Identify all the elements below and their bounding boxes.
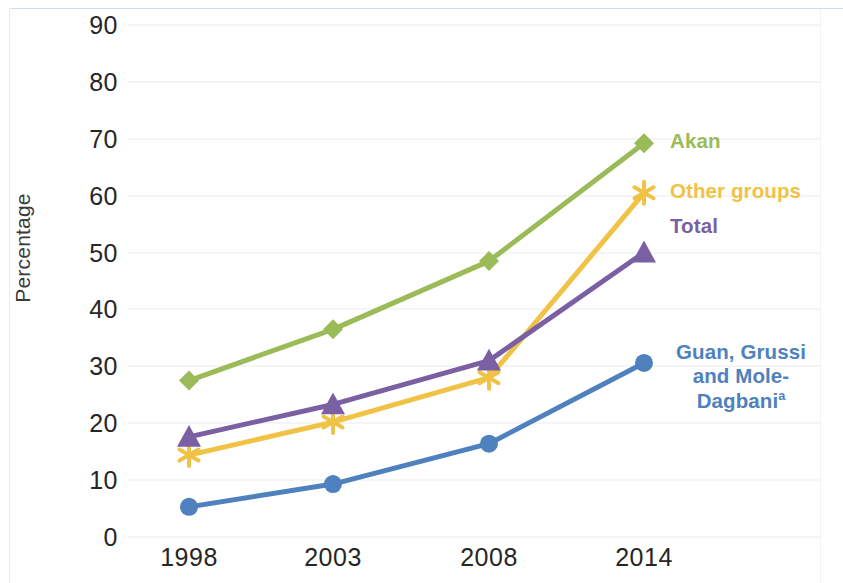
series-label-total: Total bbox=[670, 214, 718, 238]
series-label-guan-grussi-mole-dagbani: Guan, Grussi and Mole- Dagbania bbox=[666, 340, 816, 413]
data-point-marker bbox=[632, 241, 656, 263]
data-point-marker bbox=[635, 354, 653, 372]
data-point-marker bbox=[480, 435, 498, 453]
chart-page: Percentage 0102030405060708090 199820032… bbox=[0, 0, 843, 583]
series-akan bbox=[179, 133, 654, 390]
series-label-superscript: a bbox=[778, 388, 785, 403]
data-point-marker bbox=[324, 475, 342, 493]
data-point-marker bbox=[323, 319, 343, 339]
series-total bbox=[177, 241, 656, 447]
series-label-akan: Akan bbox=[670, 129, 721, 153]
series-label-line-3: Dagbani bbox=[697, 389, 779, 412]
series-label-other-groups: Other groups bbox=[670, 179, 801, 203]
data-point-marker bbox=[180, 498, 198, 516]
series-label-line-1: Guan, Grussi bbox=[676, 340, 806, 363]
series-guan-grussi-and-mole-dagbani bbox=[180, 354, 653, 516]
plot-area bbox=[0, 0, 843, 583]
data-point-marker bbox=[179, 371, 199, 391]
series-label-line-2: and Mole- bbox=[693, 364, 790, 387]
